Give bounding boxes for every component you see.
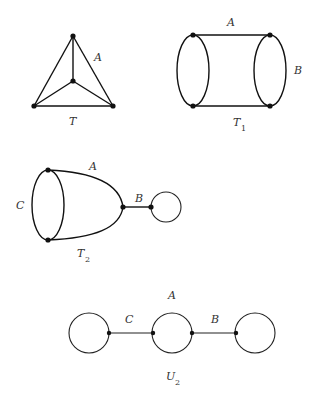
label-a: A: [88, 160, 97, 173]
caption-t1-sub: 1: [241, 124, 246, 133]
graph-t: A T: [31, 33, 115, 128]
label-b: B: [210, 313, 219, 326]
label-c: C: [125, 313, 134, 326]
caption-t: T: [69, 115, 78, 128]
graph-t2: C A B T 2: [16, 160, 181, 264]
label-c: C: [16, 199, 25, 212]
graph-t1: A B T 1: [177, 16, 302, 133]
graph-u2: A C B U 2: [69, 289, 275, 387]
label-a: A: [226, 16, 235, 29]
label-a: A: [167, 289, 176, 302]
label-a: A: [93, 51, 102, 64]
label-b: B: [134, 192, 143, 205]
label-b: B: [293, 64, 302, 77]
caption-u2-sub: 2: [175, 378, 180, 387]
graph-diagram: A T A B T 1 C A B T 2: [0, 0, 310, 399]
caption-t2-sub: 2: [85, 255, 90, 264]
